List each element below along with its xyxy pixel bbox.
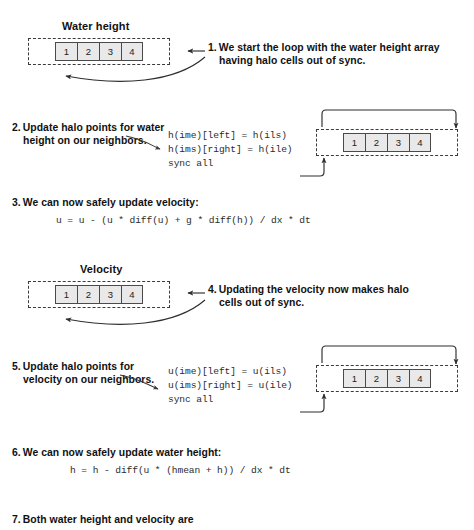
halo-cell-left [29,42,55,61]
array-cell: 1 [343,133,365,152]
step-3-text: 3.We can now safely update velocity: [12,196,312,209]
array-cells: 1 2 3 4 [55,42,143,61]
array-cell: 2 [365,133,387,152]
step-6-body: We can now safely update water height: [23,447,222,458]
code-line: u(ime)[left] = u(ils) [168,366,287,377]
step-2-text: 2.Update halo points for water height on… [12,121,173,148]
code-block-halo-exchange-velocity: u(ime)[left] = u(ils)u(ims)[right] = u(i… [168,365,292,407]
step-1-body: We start the loop with the water height … [219,42,440,66]
array-cell: 4 [409,369,431,388]
step-2-body: Update halo points for water height on o… [23,122,165,146]
array-cell: 1 [55,42,77,61]
connector-halo-top-velocity [322,346,456,364]
halo-cell-right [431,133,457,152]
step-5-number: 5. [12,361,21,372]
array-cells: 1 2 3 4 [343,133,431,152]
halo-cell-left [317,369,343,388]
array-cell: 3 [387,369,409,388]
array-cell: 4 [409,133,431,152]
code-line: u = u - (u * diff(u) + g * diff(h)) / dx… [56,215,311,226]
halo-cell-right [431,369,457,388]
step-1-number: 1. [208,42,217,53]
step-7-body: Both water height and velocity are [23,514,194,525]
connector-halo-bottom-height [300,158,324,176]
array-velocity-right: 1 2 3 4 [316,365,458,392]
step-7-number: 7. [12,514,21,525]
halo-cell-right [143,285,169,304]
array-cells: 1 2 3 4 [55,285,143,304]
code-block-update-water-height: h = h - diff(u * (hmean + h)) / dx * dt [70,464,291,478]
diagram-canvas: Water height 1 2 3 4 1.We start the loop… [0,0,474,530]
halo-cell-left [317,133,343,152]
array-cell: 1 [55,285,77,304]
halo-cell-left [29,285,55,304]
step-3-body: We can now safely update velocity: [23,197,199,208]
step-7-text: 7.Both water height and velocity are [12,513,332,526]
step-4-number: 4. [208,284,217,295]
array-water-height-left: 1 2 3 4 [28,38,170,65]
halo-cell-right [143,42,169,61]
code-block-halo-exchange-height: h(ime)[left] = h(ils)h(ims)[right] = h(i… [168,129,292,171]
code-line: sync all [168,158,213,169]
array-cell: 3 [99,42,121,61]
step-2-number: 2. [12,122,21,133]
step-5-body: Update halo points for velocity on our n… [23,361,154,385]
code-line: sync all [168,394,213,405]
array-cell: 2 [77,42,99,61]
code-line: h(ims)[right] = h(ile) [168,144,292,155]
step-4-text: 4.Updating the velocity now makes halo c… [208,283,434,310]
step-6-text: 6.We can now safely update water height: [12,446,332,459]
step-1-text: 1.We start the loop with the water heigh… [208,41,469,68]
step-3-number: 3. [12,197,21,208]
array-cell: 2 [365,369,387,388]
array-cell: 4 [121,285,143,304]
array-title-water-height: Water height [62,20,129,32]
array-cell: 2 [77,285,99,304]
array-cell: 3 [99,285,121,304]
array-cell: 1 [343,369,365,388]
code-line: u(ims)[right] = u(ile) [168,380,292,391]
connector-halo-top-height [322,110,456,128]
array-water-height-right: 1 2 3 4 [316,129,458,156]
connector-halo-bottom-velocity [300,394,324,412]
array-cell: 4 [121,42,143,61]
code-block-update-velocity: u = u - (u * diff(u) + g * diff(h)) / dx… [56,214,311,228]
array-cells: 1 2 3 4 [343,369,431,388]
step-5-text: 5.Update halo points for velocity on our… [12,360,163,387]
step-6-number: 6. [12,447,21,458]
array-cell: 3 [387,133,409,152]
array-title-velocity: Velocity [80,263,122,275]
code-line: h = h - diff(u * (hmean + h)) / dx * dt [70,465,291,476]
step-4-body: Updating the velocity now makes halo cel… [219,284,409,308]
array-velocity-left: 1 2 3 4 [28,281,170,308]
code-line: h(ime)[left] = h(ils) [168,130,287,141]
